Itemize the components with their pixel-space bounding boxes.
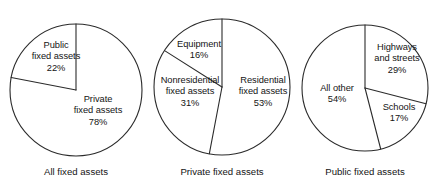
pie-3-label-all-other: All other 54%: [309, 83, 365, 106]
pie-1-caption: All fixed assets: [16, 166, 136, 178]
pie-chart-figure: Public fixed assets 22% Private fixed as…: [0, 0, 437, 189]
pie-1-label-private-fixed-assets: Private fixed assets 78%: [66, 94, 130, 128]
pie-2-label-residential-percent: 53%: [231, 98, 295, 109]
pie-2-label-nonresidential-line1: Nonresidential: [155, 75, 225, 86]
pie-3-label-schools-line1: Schools: [372, 102, 426, 113]
pie-2-label-residential-line1: Residential: [231, 75, 295, 86]
pie-1-label-private-percent: 78%: [66, 117, 130, 128]
pie-2-label-nonresidential-fixed-assets: Nonresidential fixed assets 31%: [155, 75, 225, 109]
pie-2-label-equipment-line1: Equipment: [170, 39, 228, 50]
pie-2-caption: Private fixed assets: [162, 166, 282, 178]
pie-2-label-residential-line2: fixed assets: [231, 86, 295, 97]
pie-3-label-highways-line2: and streets: [367, 53, 427, 64]
pie-3-label-highways-and-streets: Highways and streets 29%: [367, 42, 427, 76]
pie-3-label-allother-line1: All other: [309, 83, 365, 94]
pie-3-caption: Public fixed assets: [305, 166, 425, 178]
pie-3-label-schools-percent: 17%: [372, 113, 426, 124]
pie-3-label-allother-percent: 54%: [309, 94, 365, 105]
pie-3-label-highways-percent: 29%: [367, 65, 427, 76]
pie-3-label-highways-line1: Highways: [367, 42, 427, 53]
pie-2-label-equipment-percent: 16%: [170, 50, 228, 61]
pie-2-label-residential-fixed-assets: Residential fixed assets 53%: [231, 75, 295, 109]
pie-1-label-public-line1: Public: [24, 40, 88, 51]
pie-1-label-private-line2: fixed assets: [66, 105, 130, 116]
pie-1-label-public-percent: 22%: [24, 63, 88, 74]
pie-2-label-nonresidential-line2: fixed assets: [155, 86, 225, 97]
pie-1-label-public-fixed-assets: Public fixed assets 22%: [24, 40, 88, 74]
pie-1-label-public-line2: fixed assets: [24, 51, 88, 62]
pie-2-label-nonresidential-percent: 31%: [155, 98, 225, 109]
pie-3-label-schools: Schools 17%: [372, 102, 426, 125]
pie-1-label-private-line1: Private: [66, 94, 130, 105]
pie-2-label-equipment: Equipment 16%: [170, 39, 228, 62]
